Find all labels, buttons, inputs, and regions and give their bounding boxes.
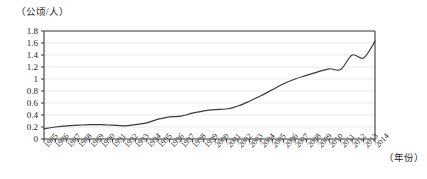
grid-lines	[44, 31, 375, 139]
plot-area	[0, 0, 427, 179]
series-line	[44, 41, 375, 129]
data-series	[44, 41, 375, 129]
axis-ticks	[41, 31, 375, 143]
chart-container: （公顷/人） （年份） 00.20.40.60.811.21.41.61.8 1…	[0, 0, 427, 179]
axis-lines	[44, 31, 375, 139]
